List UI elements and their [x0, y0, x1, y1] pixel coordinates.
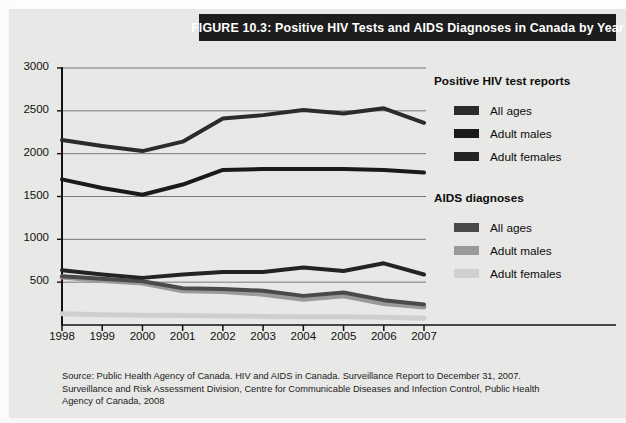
legend-item: All ages — [434, 99, 620, 122]
legend-item: Adult females — [434, 262, 620, 285]
y-tick-label: 2500 — [9, 103, 49, 115]
legend-item-label: All ages — [490, 221, 532, 235]
legend-item: Adult males — [434, 122, 620, 145]
y-tick-label: 3000 — [9, 60, 49, 72]
chart-legend: Positive HIV test reports All agesAdult … — [434, 74, 620, 285]
legend-item-label: All ages — [490, 104, 532, 118]
x-tick-label: 2003 — [240, 330, 286, 342]
series-line — [62, 169, 424, 195]
x-tick-label: 2002 — [200, 330, 246, 342]
figure-page: FIGURE 10.3: Positive HIV Tests and AIDS… — [0, 0, 626, 423]
legend-swatch-icon — [454, 246, 479, 255]
y-tick-label: 1000 — [9, 231, 49, 243]
legend-item-label: Adult females — [490, 267, 561, 281]
legend-swatch-icon — [454, 129, 479, 138]
legend-heading-hiv: Positive HIV test reports — [434, 74, 620, 88]
legend-swatch-icon — [454, 269, 479, 278]
series-line — [62, 108, 424, 151]
legend-item-label: Adult males — [490, 244, 552, 258]
source-line-2: Surveillance and Risk Assessment Divisio… — [62, 383, 562, 396]
legend-item: Adult females — [434, 145, 620, 168]
y-tick-label: 500 — [9, 274, 49, 286]
source-line-3: Agency of Canada, 2008 — [62, 395, 562, 408]
legend-group-aids: All agesAdult malesAdult females — [434, 216, 620, 285]
legend-swatch-icon — [454, 106, 479, 115]
x-tick-label: 2007 — [401, 330, 447, 342]
legend-item-label: Adult females — [490, 150, 561, 164]
source-note: Source: Public Health Agency of Canada. … — [62, 370, 562, 408]
chart-gridlines — [57, 68, 426, 282]
legend-item: All ages — [434, 216, 620, 239]
legend-swatch-icon — [454, 152, 479, 161]
series-line — [62, 314, 424, 318]
series-line — [62, 263, 424, 278]
x-tick-label: 2000 — [119, 330, 165, 342]
y-tick-label: 2000 — [9, 146, 49, 158]
chart-series-lines — [62, 108, 424, 318]
legend-item: Adult males — [434, 239, 620, 262]
x-tick-label: 1999 — [79, 330, 125, 342]
x-tick-label: 2006 — [361, 330, 407, 342]
legend-group-hiv: All agesAdult malesAdult females — [434, 99, 620, 168]
legend-swatch-icon — [454, 223, 479, 232]
x-tick-label: 1998 — [39, 330, 85, 342]
x-tick-label: 2004 — [280, 330, 326, 342]
y-tick-label: 1500 — [9, 189, 49, 201]
source-line-1: Source: Public Health Agency of Canada. … — [62, 370, 562, 383]
legend-heading-aids: AIDS diagnoses — [434, 191, 620, 205]
x-tick-label: 2001 — [160, 330, 206, 342]
x-tick-label: 2005 — [321, 330, 367, 342]
legend-item-label: Adult males — [490, 127, 552, 141]
